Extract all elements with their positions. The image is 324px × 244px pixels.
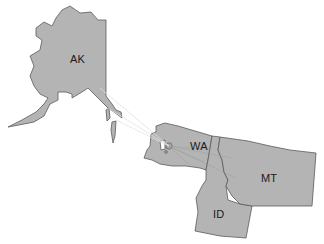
map-svg bbox=[0, 0, 324, 244]
state-ak-island-2[interactable] bbox=[111, 121, 116, 143]
state-label-id: ID bbox=[213, 208, 224, 220]
map-canvas: AK WA MT ID bbox=[0, 0, 324, 244]
state-ak-island-1[interactable] bbox=[106, 108, 110, 121]
flow-line-ak bbox=[100, 88, 169, 146]
state-label-wa: WA bbox=[190, 140, 208, 152]
state-ak[interactable] bbox=[8, 6, 122, 127]
state-label-mt: MT bbox=[261, 172, 277, 184]
state-label-ak: AK bbox=[70, 53, 85, 65]
hub-secondary-marker bbox=[165, 151, 168, 154]
